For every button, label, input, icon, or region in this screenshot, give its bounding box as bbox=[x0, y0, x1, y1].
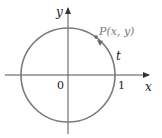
x-axis-label: x bbox=[145, 80, 152, 94]
origin-label: 0 bbox=[57, 79, 64, 92]
unit-circle-diagram: y x 0 1 P(x, y) t bbox=[0, 0, 162, 138]
point-p-label: P(x, y) bbox=[98, 25, 134, 38]
one-label: 1 bbox=[118, 79, 125, 92]
point-p bbox=[94, 35, 98, 39]
y-axis-label: y bbox=[55, 5, 63, 19]
arc-length-label: t bbox=[116, 49, 121, 63]
